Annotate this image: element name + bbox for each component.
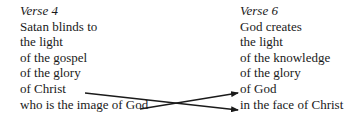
crossing-arrows bbox=[0, 0, 350, 124]
arrow-christ-to-face-icon bbox=[85, 93, 238, 110]
